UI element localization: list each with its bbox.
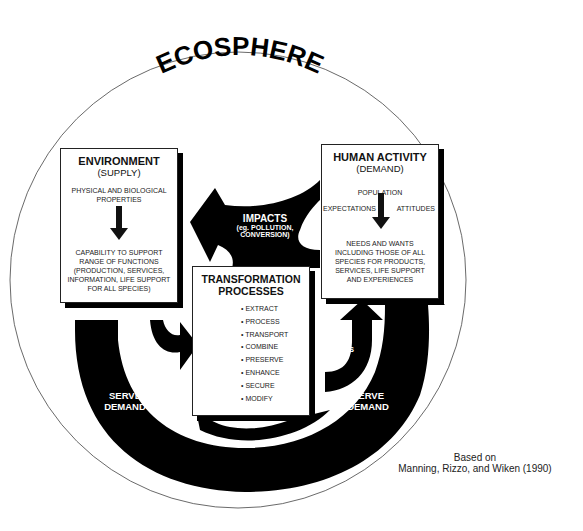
serve-demand-left-label: SERVE DEMAND xyxy=(95,390,155,412)
process-item: PROCESS xyxy=(241,316,309,329)
process-item: SECURE xyxy=(241,380,309,393)
serve-arrow-to-transformation xyxy=(150,320,198,370)
health-line1: HEALTH xyxy=(312,336,362,345)
attitudes-label: ATTITUDES xyxy=(397,204,435,213)
expectations-label: EXPECTATIONS xyxy=(323,204,376,213)
health-effects-label: HEALTH EFFECTS xyxy=(312,336,362,354)
transformation-list: EXTRACT PROCESS TRANSPORT COMBINE PRESER… xyxy=(193,303,309,405)
human-activity-subtitle: (DEMAND) xyxy=(322,163,438,174)
credit-line1: Based on xyxy=(365,452,583,463)
process-item: MODIFY xyxy=(241,393,309,406)
down-arrow-icon xyxy=(378,193,390,229)
serve-demand-right-label: SERVE DEMAND xyxy=(338,390,398,412)
serve-right-line2: DEMAND xyxy=(338,401,398,412)
process-item: COMBINE xyxy=(241,341,309,354)
process-item: TRANSPORT xyxy=(241,329,309,342)
environment-title: ENVIRONMENT xyxy=(61,155,177,167)
health-line2: EFFECTS xyxy=(312,345,362,354)
environment-bottom-text: CAPABILITY TO SUPPORT RANGE OF FUNCTIONS… xyxy=(64,248,174,293)
process-item: ENHANCE xyxy=(241,367,309,380)
impacts-label: IMPACTS (eg. POLLUTION, CONVERSION) xyxy=(225,213,305,238)
credit-line2: Manning, Rizzo, and Wiken (1990) xyxy=(365,463,583,474)
serve-left-line1: SERVE xyxy=(95,390,155,401)
transformation-title-line1: TRANSFORMATION xyxy=(193,273,309,285)
human-activity-bottom-text: NEEDS AND WANTS INCLUDING THOSE OF ALL S… xyxy=(328,239,432,284)
human-activity-title: HUMAN ACTIVITY xyxy=(322,151,438,163)
impacts-title: IMPACTS xyxy=(225,213,305,224)
transformation-box: TRANSFORMATION PROCESSES EXTRACT PROCESS… xyxy=(192,266,310,416)
serve-right-line1: SERVE xyxy=(338,390,398,401)
svg-text:ECOSPHERE: ECOSPHERE xyxy=(152,31,329,79)
environment-subtitle: (SUPPLY) xyxy=(61,167,177,178)
source-credit: Based on Manning, Rizzo, and Wiken (1990… xyxy=(365,452,583,474)
environment-top-text: PHYSICAL AND BIOLOGICAL PROPERTIES xyxy=(65,186,173,204)
ecosphere-title: ECOSPHERE xyxy=(0,0,583,140)
impacts-sub1: (eg. POLLUTION, xyxy=(225,224,305,231)
impacts-sub2: CONVERSION) xyxy=(225,231,305,238)
human-activity-box: HUMAN ACTIVITY (DEMAND) POPULATION EXPEC… xyxy=(321,144,439,299)
process-item: EXTRACT xyxy=(241,303,309,316)
transformation-title-line2: PROCESSES xyxy=(193,285,309,297)
environment-box: ENVIRONMENT (SUPPLY) PHYSICAL AND BIOLOG… xyxy=(60,148,178,303)
serve-left-line2: DEMAND xyxy=(95,401,155,412)
process-item: PRESERVE xyxy=(241,354,309,367)
